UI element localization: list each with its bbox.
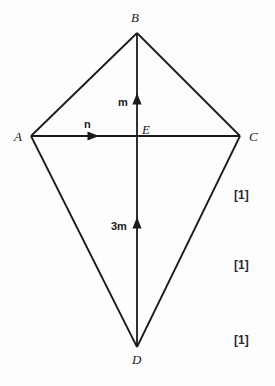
vertex-label-B: B	[131, 11, 139, 24]
edge-C-D	[137, 136, 240, 347]
vertex-label-C: C	[249, 130, 258, 143]
mark-allocation-3: [1]	[234, 334, 249, 346]
vector-label-m: m	[118, 97, 128, 108]
arrowhead-m	[132, 93, 141, 105]
vertex-label-D: D	[132, 353, 141, 366]
vector-label-3m: 3m	[111, 221, 127, 232]
vertex-label-A: A	[14, 130, 22, 143]
vertex-label-E: E	[142, 123, 150, 136]
mark-allocation-2: [1]	[234, 259, 249, 271]
arrowhead-3m	[132, 217, 141, 229]
vector-label-n: n	[84, 119, 91, 130]
mark-allocation-1: [1]	[234, 189, 249, 201]
edge-B-C	[137, 33, 240, 136]
arrowhead-n	[88, 131, 100, 140]
edge-A-D	[31, 136, 137, 347]
diagram-canvas: B A C D E m n 3m [1] [1] [1]	[0, 0, 275, 386]
